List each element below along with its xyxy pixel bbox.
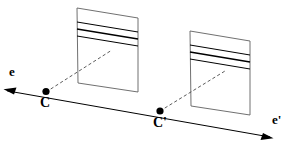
baseline-arrowhead-right [261,133,274,140]
image-plane-left-group [77,8,138,92]
image-plane-left-quad [77,8,138,92]
epipolar-geometry-figure: e e' C C' [0,0,296,146]
camera-center-left-label: C [40,96,50,110]
image-plane-right-group [190,31,250,115]
epipole-left-label: e [9,65,15,78]
camera-center-right-dot [156,107,163,114]
image-plane-right-quad [190,31,250,115]
epipole-right-label: e' [272,113,281,126]
camera-center-right-label: C' [153,116,167,130]
baseline-arrowhead-left [4,87,17,94]
diagram-canvas [0,0,296,146]
